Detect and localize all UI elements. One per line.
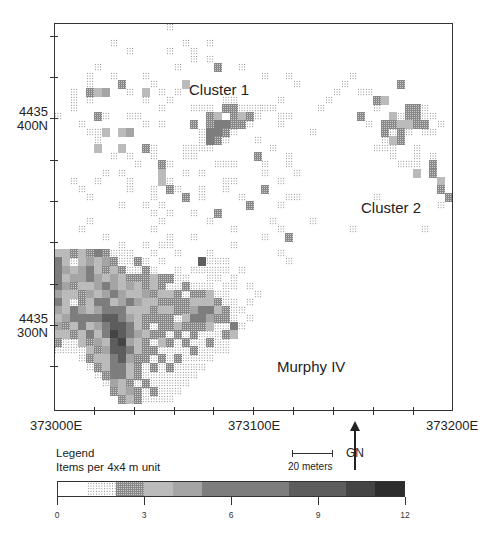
x-tick [293,407,294,415]
y-label-line2: 300N [4,326,48,340]
cluster-1-label: Cluster 1 [189,81,249,98]
y-tick [50,325,58,326]
y-tick [50,160,58,161]
x-tick [174,407,175,415]
legend-tick-label: 0 [55,510,60,520]
legend-tick [57,497,58,505]
y-label-line2: 400N [4,119,48,133]
cluster-2-label: Cluster 2 [361,199,421,216]
legend-tick [318,497,319,505]
north-label: GN [346,446,364,460]
x-tick [213,407,214,415]
y-tick [50,77,58,78]
x-tick [94,407,95,415]
scale-bar [292,453,333,454]
y-tick [50,284,58,285]
x-tick [333,407,334,415]
y-tick [50,118,58,119]
legend-color-bar [57,481,405,497]
x-axis-label-373100e: 373100E [228,418,280,433]
legend-segment [289,482,347,496]
y-tick [50,201,58,202]
legend-segment [346,482,375,496]
legend-segment [173,482,202,496]
x-tick [134,407,135,415]
x-axis-label-373000e: 373000E [30,418,82,433]
x-axis-label-373200e: 373200E [426,418,478,433]
legend-segment [87,482,116,496]
legend-tick-label: 3 [142,510,147,520]
legend-subtitle: Items per 4x4 m unit [56,460,160,474]
legend-segment [144,482,173,496]
y-tick [50,366,58,367]
scale-bar-label: 20 meters [288,461,332,472]
y-axis-label-300n: 4435 300N [4,312,48,340]
x-tick [413,407,414,415]
legend-tick [144,497,145,505]
legend-tick-label: 6 [229,510,234,520]
legend-segment [116,482,145,496]
x-tick [373,407,374,415]
legend-segment [58,482,87,496]
y-label-line1: 4435 [4,105,48,119]
legend-tick-label: 9 [316,510,321,520]
map-frame [54,23,453,411]
legend-tick [405,497,406,505]
y-tick [50,36,58,37]
x-tick [253,407,254,415]
y-axis-label-400n: 4435 400N [4,105,48,133]
legend-tick [231,497,232,505]
y-label-line1: 4435 [4,312,48,326]
legend-heading: Legend [56,446,160,460]
legend-title: Legend Items per 4x4 m unit [56,446,160,474]
y-tick [50,242,58,243]
legend-tick-label: 12 [400,510,409,520]
legend-segment [202,482,289,496]
legend-segment [375,482,404,496]
murphy-iv-label: Murphy IV [277,358,345,375]
